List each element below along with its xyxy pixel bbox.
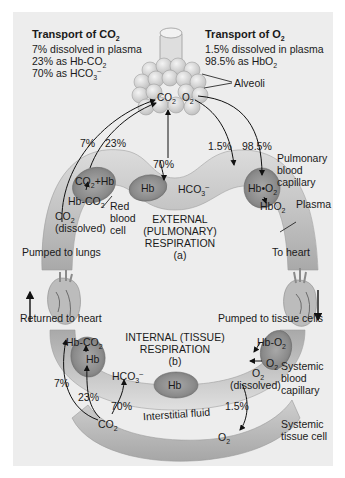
- co2-plus-hb: CO2+Hb: [75, 175, 114, 187]
- pulmonary-hb-o2: Hb•O2: [248, 182, 277, 194]
- to-heart-label: To heart: [272, 246, 310, 258]
- pumped-to-tissue-label: Pumped to tissue cells: [218, 312, 323, 324]
- pulmonary-hbo2: HbO2: [260, 200, 286, 212]
- pulmonary-pct-23: 23%: [105, 137, 126, 149]
- alveoli-cluster: [132, 58, 208, 115]
- co2-hco3-line: 70% as HCO3–: [32, 67, 142, 79]
- systemic-tissue-cell-label: Systemic tissue cell: [281, 418, 327, 442]
- pumped-to-lungs-label: Pumped to lungs: [22, 246, 101, 258]
- pulmonary-pct-70: 70%: [153, 158, 174, 170]
- o2-hbo2-line: 98.5% as HbO2: [205, 55, 323, 67]
- pulmonary-co2-dissolved: CO2 (dissolved): [55, 210, 106, 234]
- co2-transport-block: Transport of CO2 7% dissolved in plasma …: [32, 28, 142, 79]
- co2-transport-title: Transport of CO2: [32, 28, 142, 40]
- systemic-pct-1-5: 1.5%: [225, 400, 249, 412]
- systemic-pct-70: 70%: [111, 400, 132, 412]
- o2-dissolved-line: 1.5% dissolved in plasma: [205, 43, 323, 55]
- systemic-co2: CO2: [98, 418, 118, 430]
- co2-dissolved-line: 7% dissolved in plasma: [32, 43, 142, 55]
- o2-transport-title: Transport of O2: [205, 28, 323, 40]
- systemic-capillary-label: Systemic blood capillary: [281, 360, 324, 396]
- systemic-hb: Hb: [86, 353, 99, 365]
- pulmonary-pct-98-5: 98.5%: [242, 140, 272, 152]
- pulmonary-rbc-hb: Hb: [141, 182, 154, 194]
- co2-hb-line: 23% as Hb-CO2: [32, 55, 142, 67]
- returned-to-heart-label: Returned to heart: [20, 312, 102, 324]
- systemic-pct-7: 7%: [54, 377, 69, 389]
- pulmonary-capillary-label: Pulmonary blood capillary: [277, 152, 327, 188]
- pulmonary-hco3: HCO3–: [178, 183, 209, 195]
- o2-transport-block: Transport of O2 1.5% dissolved in plasma…: [205, 28, 323, 67]
- systemic-pct-23: 23%: [78, 391, 99, 403]
- external-respiration-label: EXTERNAL (PULMONARY) RESPIRATION (a): [130, 213, 230, 261]
- systemic-hb-co2: Hb-CO2: [66, 336, 103, 348]
- bronchus: [160, 28, 182, 62]
- pulmonary-hb-co2: Hb-CO2: [68, 195, 105, 207]
- alveoli-label: Alveoli: [234, 77, 265, 89]
- systemic-hb-o2: Hb-O2: [257, 336, 286, 348]
- plasma-label: Plasma: [296, 198, 331, 210]
- alveoli-o2: O2: [182, 92, 194, 104]
- pulmonary-pct-7: 7%: [80, 137, 95, 149]
- systemic-hco3: HCO3–: [112, 370, 143, 382]
- systemic-o2-dissolved: O2 (dissolved): [230, 367, 281, 391]
- alveoli-co2: CO2: [157, 92, 176, 104]
- tissue-o2: O2: [218, 431, 230, 443]
- internal-respiration-label: INTERNAL (TISSUE) RESPIRATION (b): [125, 331, 225, 367]
- systemic-rbc-hb: Hb: [168, 379, 181, 391]
- pulmonary-pct-1-5: 1.5%: [208, 140, 232, 152]
